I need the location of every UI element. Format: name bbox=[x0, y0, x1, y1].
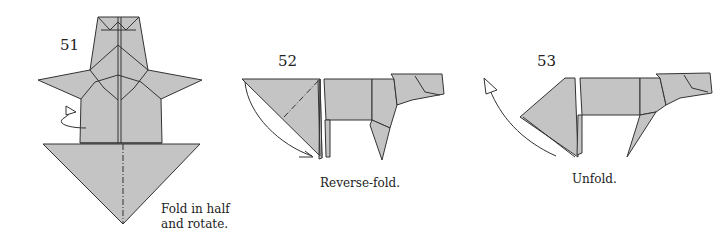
origami-diagram: 51 52 53 Fold in half and rotate. Revers… bbox=[0, 0, 723, 245]
caption-line: and rotate. bbox=[161, 217, 230, 232]
step-number-52: 52 bbox=[278, 52, 297, 70]
step-53-caption: Unfold. bbox=[572, 172, 617, 187]
step-53-figure bbox=[520, 73, 712, 157]
step-52-figure bbox=[242, 74, 444, 160]
diagram-drawing bbox=[0, 0, 723, 245]
caption-line: Fold in half bbox=[161, 202, 230, 217]
step-52-caption: Reverse-fold. bbox=[320, 176, 400, 191]
step-number-53: 53 bbox=[537, 52, 556, 70]
step-number-51: 51 bbox=[60, 36, 79, 54]
step-51-caption: Fold in half and rotate. bbox=[161, 202, 230, 232]
